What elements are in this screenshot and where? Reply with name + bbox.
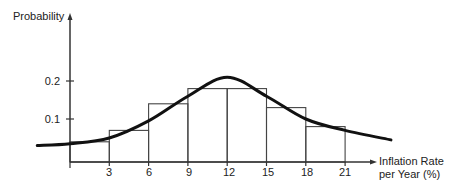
x-tick-label-21: 21 xyxy=(339,166,351,178)
x-axis-label-line2: per Year (%) xyxy=(379,168,440,181)
x-axis-label-line1: Inflation Rate xyxy=(379,155,444,168)
x-tick-label-12: 12 xyxy=(223,166,235,178)
x-tick-label-15: 15 xyxy=(262,166,274,178)
y-tick-label-0.2: 0.2 xyxy=(30,75,60,87)
density-curve xyxy=(37,77,391,145)
histogram-bar xyxy=(227,89,266,162)
y-axis-arrow-icon xyxy=(68,13,73,20)
y-axis-label: Probability xyxy=(13,10,64,23)
x-tick-label-3: 3 xyxy=(106,166,112,178)
histogram-bar xyxy=(188,89,227,162)
x-tick-label-18: 18 xyxy=(301,166,313,178)
histogram-bars xyxy=(70,89,345,162)
histogram-bar xyxy=(149,104,188,162)
x-axis-arrow-icon xyxy=(370,160,377,165)
x-tick-label-9: 9 xyxy=(186,166,192,178)
histogram-bar xyxy=(70,142,109,162)
y-tick-label-0.1: 0.1 xyxy=(30,113,60,125)
histogram-bar xyxy=(306,127,345,162)
x-tick-label-6: 6 xyxy=(146,166,152,178)
